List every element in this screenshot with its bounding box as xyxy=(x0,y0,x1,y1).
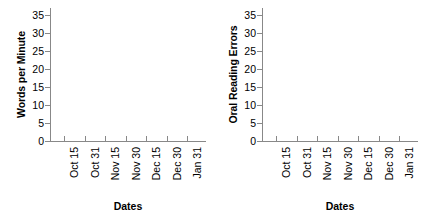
y-axis-tick xyxy=(257,69,263,70)
x-axis-tick xyxy=(64,136,65,142)
x-axis-tick-label: Oct 15 xyxy=(69,147,80,191)
y-axis-tick xyxy=(45,33,51,34)
y-axis-tick xyxy=(45,123,51,124)
x-axis-title: Dates xyxy=(50,200,206,212)
y-axis-tick xyxy=(45,105,51,106)
x-axis-tick xyxy=(338,136,339,142)
y-axis-tick xyxy=(257,141,263,142)
y-axis-tick xyxy=(257,51,263,52)
x-axis-tick-label: Dec 30 xyxy=(384,147,395,191)
x-axis-tick xyxy=(126,136,127,142)
x-axis-tick-label: Nov 30 xyxy=(131,147,142,191)
y-axis-tick xyxy=(45,141,51,142)
x-axis-tick-label: Dec 30 xyxy=(172,147,183,191)
y-axis-tick-label: 25 xyxy=(230,46,256,56)
y-axis-tick-label: 0 xyxy=(230,136,256,146)
y-axis-tick xyxy=(45,51,51,52)
x-axis-tick-label: Oct 15 xyxy=(281,147,292,191)
x-axis-tick-label: Jan 31 xyxy=(404,147,415,191)
x-axis-line xyxy=(262,141,418,142)
x-axis-tick xyxy=(379,136,380,142)
y-axis-line xyxy=(262,8,263,142)
y-axis-tick-label: 30 xyxy=(230,28,256,38)
y-axis-tick-label: 0 xyxy=(18,136,44,146)
y-axis-line xyxy=(50,8,51,142)
y-axis-tick-label: 35 xyxy=(18,10,44,20)
x-axis-tick-label: Nov 30 xyxy=(343,147,354,191)
y-axis-tick xyxy=(45,15,51,16)
x-axis-tick xyxy=(317,136,318,142)
y-axis-tick-label: 20 xyxy=(230,64,256,74)
x-axis-tick-label: Dec 15 xyxy=(363,147,374,191)
y-axis-tick xyxy=(257,105,263,106)
x-axis-tick xyxy=(276,136,277,142)
y-axis-tick xyxy=(257,87,263,88)
x-axis-tick-label: Dec 15 xyxy=(151,147,162,191)
figure-container: Words per Minute 05101520253035 Oct 15Oc… xyxy=(0,0,424,222)
x-axis-tick xyxy=(399,136,400,142)
x-axis-tick xyxy=(105,136,106,142)
x-axis-tick-label: Nov 15 xyxy=(110,147,121,191)
y-axis-tick-label: 10 xyxy=(230,100,256,110)
x-axis-line xyxy=(50,141,206,142)
y-axis-tick xyxy=(257,123,263,124)
y-axis-tick-label: 15 xyxy=(18,82,44,92)
x-axis-tick xyxy=(297,136,298,142)
y-axis-tick-label: 15 xyxy=(230,82,256,92)
y-axis-tick-label: 30 xyxy=(18,28,44,38)
x-axis-tick xyxy=(167,136,168,142)
x-axis-tick xyxy=(358,136,359,142)
chart-panel-oral-reading-errors: Oral Reading Errors 05101520253035 Oct 1… xyxy=(212,0,424,222)
x-axis-tick-label: Oct 31 xyxy=(302,147,313,191)
y-axis-tick-label: 25 xyxy=(18,46,44,56)
chart-panel-words-per-minute: Words per Minute 05101520253035 Oct 15Oc… xyxy=(0,0,212,222)
x-axis-tick xyxy=(146,136,147,142)
x-axis-tick-label: Oct 31 xyxy=(90,147,101,191)
x-axis-tick xyxy=(187,136,188,142)
y-axis-tick-label: 35 xyxy=(230,10,256,20)
x-axis-title: Dates xyxy=(262,200,418,212)
y-axis-tick-label: 20 xyxy=(18,64,44,74)
y-axis-tick-label: 5 xyxy=(18,118,44,128)
y-axis-tick xyxy=(257,33,263,34)
x-axis-tick-label: Nov 15 xyxy=(322,147,333,191)
x-axis-tick-label: Jan 31 xyxy=(192,147,203,191)
y-axis-tick xyxy=(45,87,51,88)
y-axis-tick xyxy=(257,15,263,16)
y-axis-tick-label: 5 xyxy=(230,118,256,128)
x-axis-tick xyxy=(85,136,86,142)
y-axis-tick-label: 10 xyxy=(18,100,44,110)
y-axis-tick xyxy=(45,69,51,70)
